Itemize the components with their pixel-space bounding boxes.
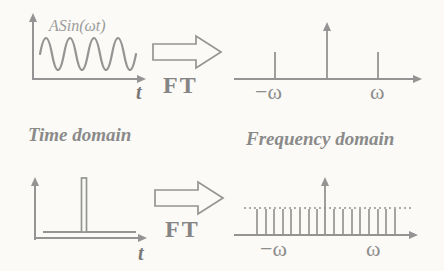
ft-transform-top: FT — [153, 36, 221, 98]
x-axis-arrowhead-icon — [138, 234, 147, 242]
amplitude-axis-arrowhead-icon — [321, 177, 329, 186]
freq-axis-arrowhead-icon — [409, 231, 418, 239]
sine-curve — [40, 38, 136, 70]
diagram-page: ASin(ωt) t FT −ω ω Time domain Frequency… — [0, 0, 444, 271]
impulse-pulse — [82, 178, 87, 232]
sine-time-plot: ASin(ωt) t — [29, 13, 146, 103]
y-axis-arrowhead-icon — [29, 13, 37, 22]
y-axis-arrowhead-icon — [31, 177, 39, 186]
diagram-canvas: ASin(ωt) t FT −ω ω Time domain Frequency… — [0, 0, 444, 271]
amplitude-axis-arrowhead-icon — [323, 22, 331, 31]
block-arrow-right-icon — [155, 182, 223, 214]
pos-omega-label: ω — [370, 79, 384, 104]
caption-frequency-domain: Frequency domain — [245, 128, 394, 149]
spectral-comb-lines — [257, 209, 395, 235]
sine-signal-label: ASin(ωt) — [48, 17, 106, 35]
caption-time-domain: Time domain — [28, 124, 131, 145]
neg-omega-label: −ω — [260, 236, 287, 261]
neg-omega-label: −ω — [255, 79, 282, 104]
time-axis-label: t — [136, 81, 143, 103]
impulse-freq-plot: −ω ω — [234, 177, 418, 261]
freq-axis-arrowhead-icon — [413, 75, 422, 83]
ft-transform-bottom: FT — [155, 182, 223, 242]
ft-label: FT — [163, 72, 198, 98]
time-axis-label: t — [138, 242, 145, 264]
sine-freq-plot: −ω ω — [234, 22, 422, 104]
block-arrow-right-icon — [153, 36, 221, 68]
pos-omega-label: ω — [366, 236, 380, 261]
impulse-time-plot: t — [31, 177, 147, 264]
ft-label: FT — [165, 216, 200, 242]
